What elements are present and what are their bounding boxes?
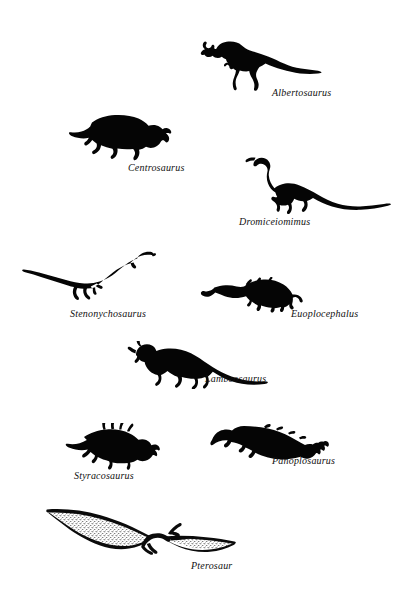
figure-albertosaurus (200, 36, 322, 94)
figure-euoplocephalus (200, 277, 304, 315)
styracosaurus-silhouette (58, 423, 168, 471)
pterosaur-silhouette (44, 503, 236, 557)
label-pterosaur: Pterosaur (191, 561, 232, 571)
albertosaurus-silhouette (200, 36, 322, 94)
label-styracosaurus: Styracosaurus (74, 471, 134, 481)
figure-styracosaurus (58, 423, 168, 471)
label-euoplocephalus: Euoplocephalus (291, 309, 358, 319)
figure-stenonychosaurus (22, 248, 156, 306)
label-albertosaurus: Albertosaurus (272, 88, 331, 98)
stenonychosaurus-silhouette (22, 248, 156, 306)
figure-pterosaur (44, 503, 236, 557)
dinosaur-silhouette-plate: Albertosaurus Centrosaurus Dromiceiomimu… (0, 0, 394, 592)
figure-dromiceiomimus (244, 152, 392, 214)
label-panoplosaurus: Panoplosaurus (272, 456, 335, 466)
label-dromiceiomimus: Dromiceiomimus (239, 217, 310, 227)
dromiceiomimus-silhouette (244, 152, 392, 214)
label-centrosaurus: Centrosaurus (128, 163, 184, 173)
euoplocephalus-silhouette (200, 277, 304, 315)
centrosaurus-silhouette (68, 112, 172, 162)
figure-centrosaurus (68, 112, 172, 162)
label-stenonychosaurus: Stenonychosaurus (70, 309, 146, 319)
label-lambeosaurus: Lambeosaurus (205, 374, 266, 384)
